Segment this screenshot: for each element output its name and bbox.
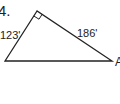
left-leg-label: 123': [0, 30, 20, 41]
vertex-a-label: A: [115, 56, 120, 68]
right-leg-label: 186': [77, 28, 97, 39]
triangle-figure: 4. 123' 186' A: [0, 0, 120, 104]
problem-number: 4.: [0, 3, 11, 18]
right-triangle-drawing: [0, 0, 120, 104]
